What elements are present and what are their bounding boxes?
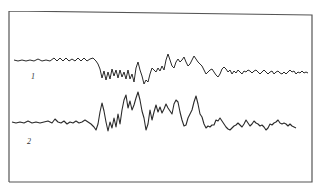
trace-2-label: 2 [27,138,31,146]
trace-1-label: 1 [31,73,35,81]
waveform-trace-2 [12,92,296,131]
traces-canvas [0,0,319,189]
waveform-trace-1 [14,54,308,84]
